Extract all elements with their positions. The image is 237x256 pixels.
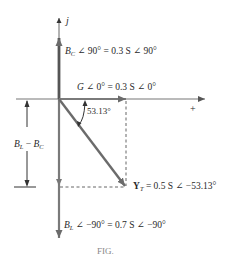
bl-phasor-label: BL ∠ −90° = 0.7 S ∠ −90°: [64, 221, 166, 232]
g-symbol: G: [77, 82, 84, 92]
bc-subscript: C: [71, 50, 75, 57]
real-axis-positive-label: +: [190, 104, 196, 114]
dimension-bc-subscript: C: [39, 143, 43, 150]
yt-phasor-label: YT = 0.5 S ∠ −53.13°: [133, 182, 216, 193]
dimension-arrow-up-icon: [25, 100, 30, 107]
yt-polar-value: = 0.5 S ∠ −53.13°: [146, 181, 217, 191]
yt-symbol: Y: [133, 181, 140, 191]
yt-subscript: T: [140, 185, 144, 192]
bl-intermediate-arrow-icon: [56, 179, 62, 186]
dimension-label: BL − BC: [13, 140, 45, 151]
dimension-bl-subscript: L: [20, 143, 24, 150]
bl-polar-value: ∠ −90° = 0.7 S ∠ −90°: [76, 220, 166, 230]
bc-polar-value: ∠ 90° = 0.3 S ∠ 90°: [78, 46, 157, 56]
bc-phasor-label: BC ∠ 90° = 0.3 S ∠ 90°: [65, 47, 157, 58]
bl-subscript: L: [70, 224, 74, 231]
dimension-arrow-down-icon: [25, 180, 30, 187]
dimension-minus: −: [26, 139, 31, 149]
g-polar-value: ∠ 0° = 0.3 S ∠ 0°: [86, 82, 156, 92]
angle-arc: [79, 103, 85, 124]
imaginary-axis-label: j: [66, 16, 69, 26]
figure-caption: FIG.: [97, 247, 114, 256]
g-phasor-label: G ∠ 0° = 0.3 S ∠ 0°: [77, 83, 156, 93]
angle-label: 53.13°: [87, 107, 111, 116]
